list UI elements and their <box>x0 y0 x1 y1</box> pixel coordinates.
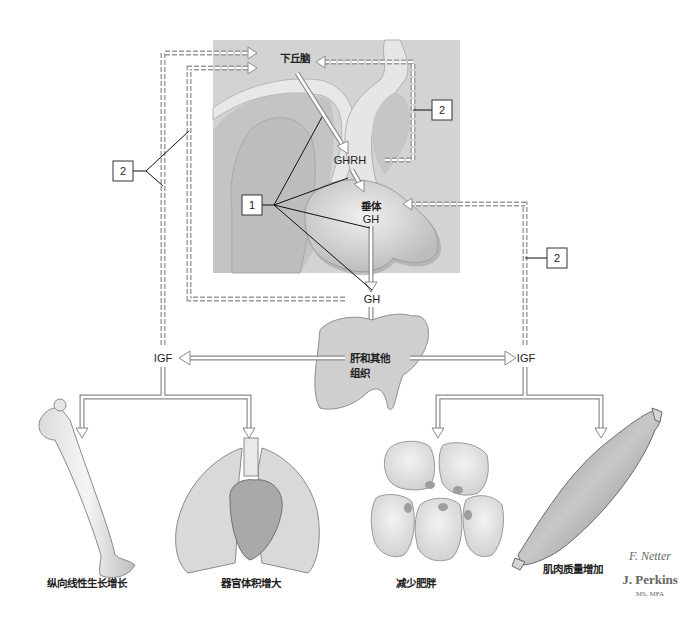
gh-regulation-diagram: 1 2 2 2 下丘脑 GHRH 垂体 GH GH 肝和其他 组织 IGF IG… <box>0 0 697 632</box>
fat-cells-illustration <box>371 441 503 561</box>
artist-signature: F. Netter J. Perkins MS, MFA <box>622 549 678 598</box>
signature-credentials: MS, MFA <box>636 590 664 598</box>
cell-nucleus <box>464 510 472 520</box>
liver-label-line2: 组织 <box>350 367 371 379</box>
callout-2-right: 2 <box>547 248 567 268</box>
bone-illustration <box>39 399 135 578</box>
muscle-illustration <box>512 408 662 570</box>
cell-nucleus <box>425 481 435 489</box>
effect-label-muscle: 肌肉质量增加 <box>543 563 603 575</box>
ghrh-label: GHRH <box>334 154 366 166</box>
callout-2-right-number: 2 <box>554 252 560 264</box>
igf-left-label: IGF <box>154 352 173 364</box>
callout-2-left-number: 2 <box>120 165 126 177</box>
fat-cell <box>439 443 488 495</box>
femur-head <box>54 399 66 411</box>
cell-nucleus <box>438 503 448 511</box>
effect-label-fat: 减少肥胖 <box>396 577 437 589</box>
gh-label: GH <box>364 293 381 305</box>
signature-script: F. Netter <box>628 549 671 563</box>
effect-label-organs: 器官体积增大 <box>220 577 282 589</box>
signature-name: J. Perkins <box>622 572 678 587</box>
pituitary-gh-label: GH <box>363 213 380 225</box>
cell-nucleus <box>404 503 412 513</box>
hypothalamus-label: 下丘脑 <box>280 52 311 64</box>
muscle-belly <box>518 410 660 565</box>
callout-2-upper-right: 2 <box>432 100 452 120</box>
lungs-heart-illustration <box>176 438 320 573</box>
callout-2-left: 2 <box>113 161 133 181</box>
femur <box>39 408 135 577</box>
effect-label-bone: 纵向线性生长增长 <box>47 577 128 589</box>
callout-1: 1 <box>242 195 262 215</box>
pituitary-label: 垂体 <box>361 200 382 212</box>
callout-2-upper-right-number: 2 <box>439 104 445 116</box>
igf-right-label: IGF <box>517 352 536 364</box>
callout-1-number: 1 <box>249 199 255 211</box>
liver-label: 肝和其他 <box>350 352 391 364</box>
cell-nucleus <box>453 486 463 494</box>
fat-cell <box>463 496 504 557</box>
trachea <box>244 438 258 476</box>
